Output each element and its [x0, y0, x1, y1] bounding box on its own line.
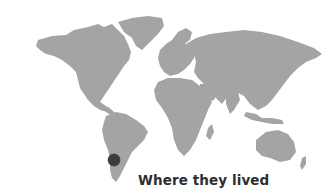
world-map — [0, 0, 334, 195]
new-zealand — [300, 156, 306, 170]
india — [226, 92, 240, 114]
southeast-asia-islands — [244, 112, 284, 124]
australia — [256, 130, 296, 162]
north-america — [36, 24, 131, 112]
madagascar — [206, 124, 214, 140]
location-marker — [108, 154, 120, 166]
map-caption: Where they lived — [138, 172, 269, 188]
